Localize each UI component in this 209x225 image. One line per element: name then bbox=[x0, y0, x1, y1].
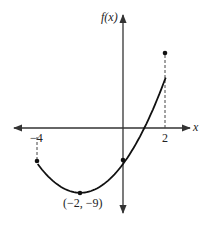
tick-label-right: 2 bbox=[162, 131, 168, 145]
endpoint-right bbox=[163, 51, 168, 56]
y-axis-label: f(x) bbox=[101, 10, 118, 24]
vertex-point bbox=[78, 191, 83, 196]
x-axis-label: x bbox=[192, 120, 199, 134]
vertex-label: (−2, −9) bbox=[63, 196, 103, 210]
function-graph: f(x) x −4 2 (−2, −9) bbox=[0, 0, 209, 225]
endpoint-left bbox=[35, 159, 40, 164]
y-intercept-point bbox=[121, 158, 126, 163]
tick-label-left: −4 bbox=[30, 131, 43, 145]
parabola-curve bbox=[38, 78, 166, 193]
